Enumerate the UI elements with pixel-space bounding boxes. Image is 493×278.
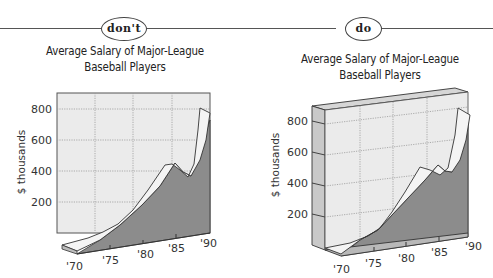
charts-canvas: 800 600 400 200 $ thousands '70 '75 '80 … bbox=[0, 0, 493, 278]
y-tick-800: 800 bbox=[31, 103, 52, 116]
x-tick-85: '85 bbox=[168, 242, 185, 255]
y-tick-200: 200 bbox=[287, 208, 308, 221]
x-tick-80: '80 bbox=[398, 252, 415, 265]
y-tick-600: 600 bbox=[287, 146, 308, 159]
x-tick-70: '70 bbox=[66, 260, 83, 273]
chart-do: 800 600 400 200 $ thousands '70 '75 '80 … bbox=[269, 88, 482, 276]
x-tick-70: '70 bbox=[333, 263, 350, 276]
y-axis-label: $ thousands bbox=[269, 133, 281, 198]
x-tick-90: '90 bbox=[200, 237, 217, 250]
x-tick-85: '85 bbox=[431, 246, 448, 259]
y-tick-200: 200 bbox=[31, 196, 52, 209]
y-tick-400: 400 bbox=[287, 177, 308, 190]
chart-dont: 800 600 400 200 $ thousands '70 '75 '80 … bbox=[15, 93, 217, 273]
x-tick-80: '80 bbox=[137, 248, 154, 261]
y-tick-600: 600 bbox=[31, 134, 52, 147]
x-tick-90: '90 bbox=[465, 240, 482, 253]
x-tick-75: '75 bbox=[365, 257, 382, 270]
x-tick-75: '75 bbox=[102, 254, 119, 267]
y-tick-400: 400 bbox=[31, 165, 52, 178]
y-tick-800: 800 bbox=[287, 115, 308, 128]
box-side bbox=[312, 106, 325, 250]
y-axis-label: $ thousands bbox=[15, 130, 27, 195]
